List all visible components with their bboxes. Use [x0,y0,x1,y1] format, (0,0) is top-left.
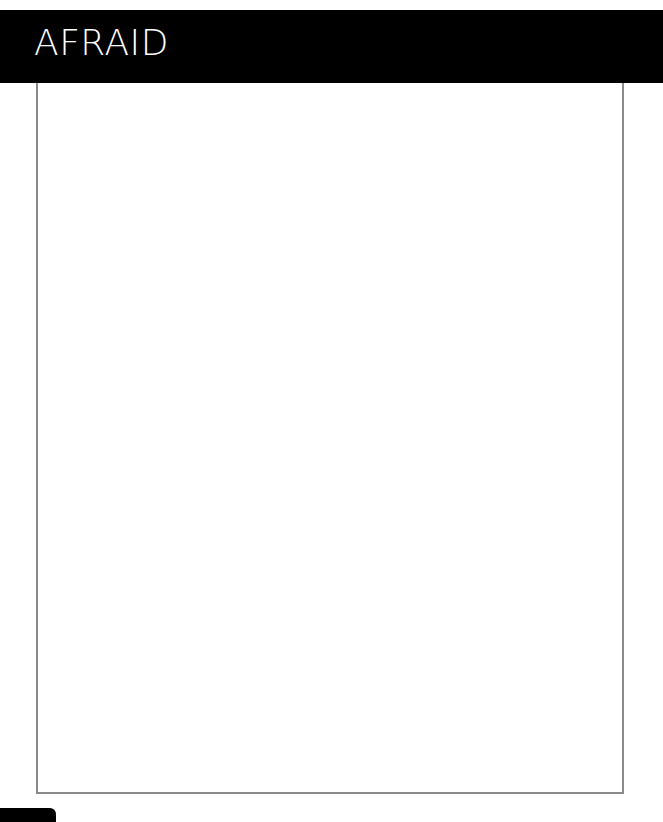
drawing-area [36,83,624,794]
page-title: AFRAID [34,22,169,63]
title-banner: AFRAID [0,10,663,83]
footer-tab [0,808,56,822]
